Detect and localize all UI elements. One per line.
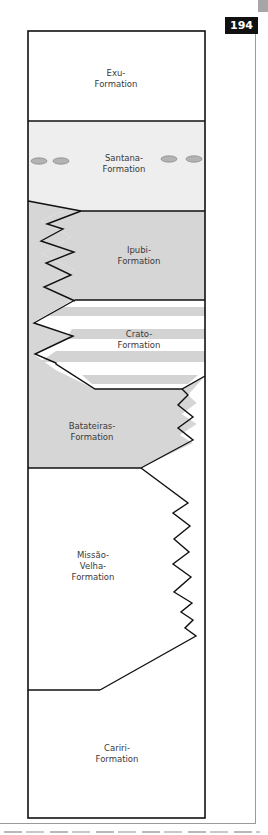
- nodule-icon: [161, 156, 177, 162]
- ipubi-label-line1: Ipubi-: [127, 245, 151, 255]
- exu-label-line1: Exu-: [107, 68, 126, 78]
- nodule-icon: [53, 158, 69, 164]
- crato-label-line1: Crato-: [126, 329, 152, 339]
- crato-label-line2: Formation: [118, 340, 161, 350]
- missao-velha-label-line2: Velha-: [80, 561, 106, 571]
- cariri-label-line2: Formation: [96, 754, 139, 764]
- ipubi-label-line2: Formation: [118, 256, 161, 266]
- caption-text-cutoff: [0, 828, 268, 835]
- santana-label-line1: Santana-: [105, 153, 143, 163]
- batateiras-label-line1: Batateiras-: [69, 421, 116, 431]
- santana-label-line2: Formation: [103, 164, 146, 174]
- batateiras-label-line2: Formation: [71, 432, 114, 442]
- exu-label-line2: Formation: [95, 79, 138, 89]
- missao-velha-label-line3: Formation: [72, 572, 115, 582]
- ipubi-formation-area: [28, 200, 205, 300]
- stratigraphic-column-diagram: Exu- Formation Santana- Formation Ipubi-…: [0, 0, 268, 835]
- nodule-icon: [186, 156, 202, 162]
- cariri-label-line1: Cariri-: [104, 743, 130, 753]
- nodule-icon: [31, 158, 47, 164]
- missao-velha-label-line1: Missão-: [77, 550, 109, 560]
